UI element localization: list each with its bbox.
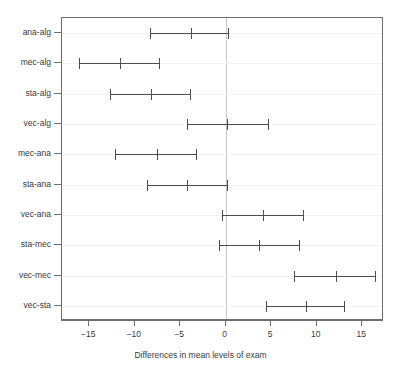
interval-bar [150,33,228,34]
interval-estimate-mark [120,58,121,69]
y-tick-label-sta-mec: sta-mec [21,239,51,249]
confidence-interval-sta-ana [62,179,382,191]
x-tick [225,320,226,326]
y-tick-label-vec-ana: vec-ana [21,209,51,219]
interval-estimate-mark [191,28,192,39]
interval-cap-upper [196,149,197,160]
confidence-interval-vec-ana [62,209,382,221]
interval-cap-upper [268,119,269,130]
confidence-interval-sta-alg [62,88,382,100]
y-tick-label-vec-alg: vec-alg [24,118,51,128]
confidence-interval-vec-mec [62,270,382,282]
confidence-interval-mec-alg [62,57,382,69]
confidence-interval-vec-sta [62,300,382,312]
y-tick [54,214,61,215]
y-tick-label-mec-ana: mec-ana [18,148,51,158]
interval-cap-lower [110,89,111,100]
x-tick-label: 10 [296,329,336,339]
x-tick-label: 0 [205,329,245,339]
interval-estimate-mark [306,301,307,312]
confidence-interval-ana-alg [62,27,382,39]
interval-cap-lower [79,58,80,69]
y-tick-label-vec-sta: vec-sta [24,300,51,310]
x-tick [88,320,89,326]
y-tick [54,123,61,124]
interval-cap-upper [299,240,300,251]
interval-cap-lower [219,240,220,251]
chart-title [0,0,401,4]
interval-cap-upper [159,58,160,69]
interval-bar [294,276,375,277]
x-tick-label: 15 [341,329,381,339]
interval-estimate-mark [336,271,337,282]
interval-cap-lower [115,149,116,160]
confidence-interval-sta-mec [62,239,382,251]
x-tick-label: −10 [114,329,154,339]
x-tick-label: 5 [250,329,290,339]
interval-estimate-mark [263,210,264,221]
interval-cap-upper [227,180,228,191]
y-tick-label-mec-alg: mec-alg [21,57,51,67]
interval-cap-lower [266,301,267,312]
x-axis-title: Differences in mean levels of exam [0,350,401,360]
x-tick [316,320,317,326]
y-tick [54,62,61,63]
interval-cap-lower [150,28,151,39]
x-tick-label: −15 [68,329,108,339]
x-tick-label: −5 [159,329,199,339]
y-tick-label-ana-alg: ana-alg [23,27,51,37]
y-tick-label-sta-alg: sta-alg [25,88,51,98]
y-tick [54,305,61,306]
interval-cap-upper [228,28,229,39]
interval-estimate-mark [157,149,158,160]
interval-cap-lower [294,271,295,282]
confidence-interval-vec-alg [62,118,382,130]
y-tick [54,244,61,245]
y-tick [54,184,61,185]
y-tick [54,275,61,276]
interval-estimate-mark [227,119,228,130]
x-axis-line [61,320,383,321]
interval-estimate-mark [187,180,188,191]
plot-panel [61,17,383,320]
y-tick-label-sta-ana: sta-ana [23,179,51,189]
confidence-interval-mec-ana [62,148,382,160]
x-tick [179,320,180,326]
x-tick [361,320,362,326]
tukey-confidence-interval-plot: ana-algmec-algsta-algvec-algmec-anasta-a… [0,0,401,377]
x-tick [134,320,135,326]
y-tick-label-vec-mec: vec-mec [19,270,51,280]
interval-cap-upper [375,271,376,282]
interval-cap-upper [303,210,304,221]
interval-cap-lower [187,119,188,130]
x-tick [270,320,271,326]
interval-estimate-mark [259,240,260,251]
interval-cap-upper [344,301,345,312]
y-tick [54,153,61,154]
y-tick [54,32,61,33]
y-tick [54,93,61,94]
interval-cap-upper [190,89,191,100]
interval-cap-lower [147,180,148,191]
interval-cap-lower [222,210,223,221]
interval-bar [115,154,196,155]
interval-estimate-mark [151,89,152,100]
